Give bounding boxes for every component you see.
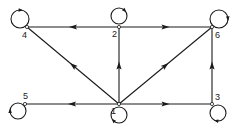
node-3 (210, 102, 213, 105)
node-label-4: 4 (22, 30, 27, 40)
node-label-1: 1 (111, 106, 116, 116)
loop-arrow-icon (18, 8, 23, 12)
loop-arrow-icon (214, 119, 219, 123)
node-2 (117, 25, 120, 28)
node-6 (210, 25, 213, 28)
node-1 (117, 102, 120, 105)
node-4 (25, 25, 28, 28)
loop-arrow-icon (8, 109, 12, 114)
node-label-3: 3 (215, 92, 220, 102)
edges-layer (25, 24, 215, 106)
directed-graph: 123456 (0, 0, 236, 127)
node-label-5: 5 (23, 91, 28, 101)
node-5 (23, 102, 26, 105)
self-loop-3 (210, 105, 226, 121)
node-label-2: 2 (112, 29, 117, 39)
loop-arrow-icon (226, 16, 230, 21)
node-label-6: 6 (215, 30, 220, 40)
